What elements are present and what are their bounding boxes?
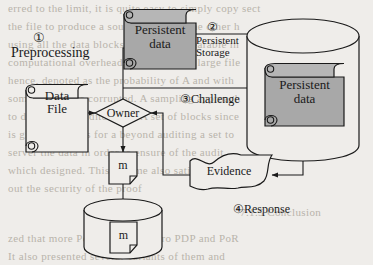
local-store-m-label: m: [110, 228, 137, 243]
figure-canvas: erred to the limit, it is quite easy to …: [0, 0, 373, 265]
step-2-label-line1: Persistent: [196, 34, 239, 46]
owner-label: Owner: [95, 106, 151, 121]
persistent-data-top-label: Persistent data: [124, 23, 196, 51]
step-2-label: Persistent Storage: [196, 34, 239, 58]
step-1-marker: ①: [33, 30, 45, 46]
step-3-label: ③Challenge: [180, 92, 240, 107]
data-file-label: Data File: [36, 89, 78, 115]
persistent-data-top-line2: data: [149, 36, 171, 51]
edge-evidence-to-owner: [151, 113, 190, 175]
persistent-data-stored-label: Persistent data: [265, 78, 344, 106]
persistent-data-stored-line2: data: [294, 91, 316, 106]
step-2-label-line2: Storage: [196, 46, 230, 58]
persistent-data-top-line1: Persistent: [135, 22, 186, 37]
step-1-label: Preprocessing: [11, 45, 90, 61]
data-file-label-line2: File: [47, 101, 67, 116]
tag-m-label: m: [109, 158, 137, 173]
evidence-label: Evidence: [196, 164, 262, 179]
step-2-marker: ②: [207, 20, 218, 35]
edge-cylinder-to-evidence-response: [272, 160, 303, 175]
persistent-data-stored-line1: Persistent: [279, 77, 330, 92]
step-4-label: ④Response: [233, 202, 290, 217]
